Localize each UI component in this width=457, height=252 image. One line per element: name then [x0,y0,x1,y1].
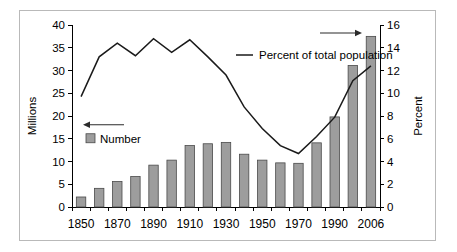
x-axis-tick-label: 2006 [358,217,385,231]
bar [76,197,85,207]
x-axis-tick-label: 1850 [68,217,95,231]
x-axis-tick-label: 1930 [213,217,240,231]
chart-plot: 0510152025303540Millions0246810121416Per… [20,11,435,240]
x-axis-tick-label: 1990 [321,217,348,231]
chart-frame: 0510152025303540Millions0246810121416Per… [19,10,436,241]
left-axis-tick-label: 0 [59,201,65,213]
bar [276,163,285,207]
bar [312,143,321,207]
arrow-left-icon [83,122,90,128]
arrow-right-icon [355,30,362,36]
x-axis-tick-label: 1910 [176,217,203,231]
right-axis-title: Percent [412,95,424,135]
left-axis-tick-label: 35 [52,42,65,54]
left-axis-tick-label: 15 [52,133,65,145]
x-axis-tick-label: 1950 [249,217,276,231]
bar [239,154,248,207]
right-axis-tick-label: 12 [387,65,400,77]
right-axis-tick-label: 6 [387,133,393,145]
left-axis-tick-label: 25 [52,87,65,99]
x-axis: 185018701890191019301950197019902006 [68,207,385,231]
bar [258,160,267,207]
bar [330,117,339,207]
right-axis-tick-label: 0 [387,201,393,213]
right-axis-tick-label: 2 [387,178,393,190]
bar [185,146,194,207]
legend-number: Number [83,122,141,145]
bar [294,163,303,207]
left-axis-tick-label: 20 [52,110,65,122]
left-axis-tick-label: 30 [52,65,65,77]
bar [131,177,140,207]
left-axis-tick-label: 40 [52,19,65,31]
bar [221,142,230,207]
right-axis-tick-label: 16 [387,19,400,31]
legend-percent-label: Percent of total population [259,49,393,61]
bar [167,160,176,207]
legend-number-label: Number [100,133,141,145]
left-axis: 0510152025303540Millions [26,19,72,213]
right-axis-tick-label: 8 [387,110,393,122]
x-axis-tick-label: 1890 [140,217,167,231]
bar [94,188,103,207]
left-axis-title: Millions [26,97,38,136]
x-axis-tick-label: 1970 [285,217,312,231]
bar [203,144,212,207]
left-axis-tick-label: 5 [59,178,65,190]
bar [366,36,375,207]
right-axis-tick-label: 4 [387,156,394,168]
left-axis-tick-label: 10 [52,156,65,168]
x-axis-tick-label: 1870 [104,217,131,231]
bar [149,165,158,207]
bar [113,182,122,207]
legend-bar-swatch [86,134,95,143]
right-axis-tick-label: 10 [387,87,400,99]
